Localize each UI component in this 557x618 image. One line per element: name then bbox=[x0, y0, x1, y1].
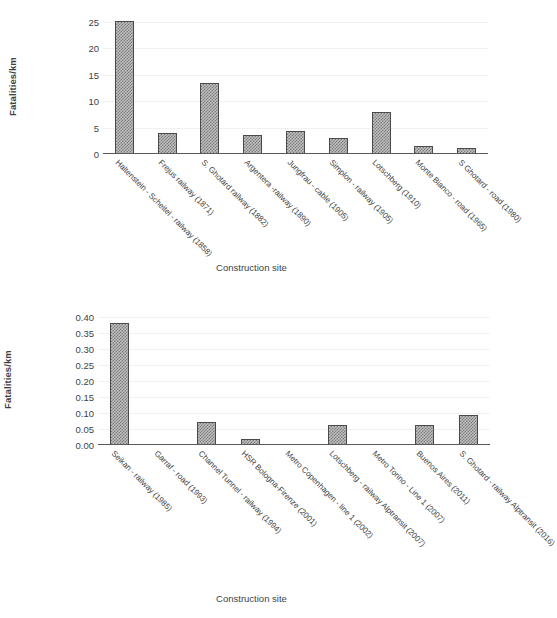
chart-bottom-bars bbox=[98, 317, 490, 445]
chart-top-plot-area bbox=[103, 22, 488, 154]
bar bbox=[158, 133, 177, 154]
y-tick-label: 25 bbox=[88, 17, 99, 28]
y-tick-label: 0.00 bbox=[76, 440, 95, 451]
bar bbox=[328, 425, 347, 445]
bar bbox=[197, 422, 216, 445]
y-tick-label: 5 bbox=[94, 122, 99, 133]
chart-top-y-axis-title: Fatalities/km bbox=[6, 57, 17, 117]
y-tick-label: 0.35 bbox=[76, 328, 95, 339]
chart-top-y-axis-ticks: 0510152025 bbox=[63, 22, 99, 154]
chart-bottom-x-axis-title: Construction site bbox=[0, 593, 503, 604]
category-label: Metro Copenhagen - line 1 (2002) bbox=[284, 449, 375, 540]
chart-bottom-x-axis-line bbox=[98, 444, 490, 445]
category-label: HSR Bologna-Firenze (2001) bbox=[240, 449, 319, 528]
category-label: Haltenstein - Scheitel - railway (1858) bbox=[114, 158, 214, 258]
bar bbox=[286, 131, 305, 154]
chart-bottom-plot-area bbox=[98, 317, 490, 445]
bar bbox=[200, 83, 219, 154]
y-tick-label: 0.15 bbox=[76, 392, 95, 403]
y-tick-label: 10 bbox=[88, 96, 99, 107]
category-label: Monte Bianco - road (1965) bbox=[413, 158, 488, 233]
chart-top-x-axis-title: Construction site bbox=[0, 262, 503, 273]
chart-bottom-modern-tunnels: Fatalities/km 0.000.050.100.150.200.250.… bbox=[0, 300, 503, 618]
y-tick-label: 20 bbox=[88, 43, 99, 54]
bar bbox=[459, 415, 478, 445]
bar bbox=[243, 135, 262, 154]
y-tick-label: 0.20 bbox=[76, 376, 95, 387]
chart-top-bars bbox=[103, 22, 488, 154]
y-tick-label: 0.25 bbox=[76, 360, 95, 371]
bar bbox=[372, 112, 391, 154]
bar bbox=[110, 323, 129, 445]
category-label: S. Ghotard - railway Alptransit (2016) bbox=[458, 449, 557, 548]
y-tick-label: 0.10 bbox=[76, 408, 95, 419]
y-tick-label: 0.05 bbox=[76, 424, 95, 435]
y-tick-label: 15 bbox=[88, 69, 99, 80]
chart-bottom-y-axis-title: Fatalities/km bbox=[1, 350, 12, 410]
chart-top-historic-tunnels: Fatalities/km 0510152025 Haltenstein - S… bbox=[0, 0, 503, 300]
category-label: Lotschberg - railway Alptransit (2007) bbox=[327, 449, 427, 549]
chart-bottom-y-axis-ticks: 0.000.050.100.150.200.250.300.350.40 bbox=[58, 317, 94, 445]
bar bbox=[415, 425, 434, 445]
chart-top-x-axis-line bbox=[103, 153, 488, 154]
category-label: Channel Tunnel - railway (1994) bbox=[197, 449, 283, 535]
y-tick-label: 0.30 bbox=[76, 344, 95, 355]
bar bbox=[115, 21, 134, 154]
y-tick-label: 0 bbox=[94, 149, 99, 160]
category-label: Metro Torino - Line 1 (2007) bbox=[371, 449, 447, 525]
y-tick-label: 0.40 bbox=[76, 312, 95, 323]
